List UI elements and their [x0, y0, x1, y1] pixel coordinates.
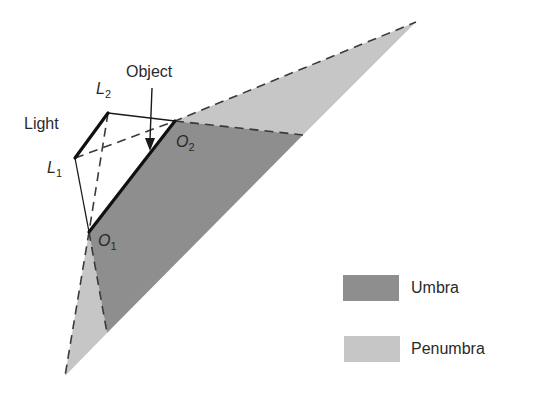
o2-label-main: O [176, 133, 188, 150]
object-label: Object [126, 64, 172, 80]
l2-label-main: L [96, 80, 105, 97]
l1-label-main: L [47, 159, 56, 176]
legend-label-penumbra: Penumbra [411, 341, 485, 357]
o1-label: O1 [98, 233, 117, 254]
shadow-diagram [0, 0, 537, 393]
o1-label-main: O [98, 232, 110, 249]
o1-label-sub: 1 [110, 240, 116, 252]
l1-label-sub: 1 [56, 167, 62, 179]
line-l2-o2 [108, 113, 175, 121]
legend-swatch-penumbra [344, 336, 400, 362]
legend-label-umbra: Umbra [411, 280, 459, 296]
light-label: Light [24, 116, 59, 132]
l1-label: L1 [47, 160, 62, 181]
l2-label-sub: 2 [105, 88, 111, 100]
umbra-region [89, 121, 303, 333]
object-arrow-icon [145, 88, 155, 151]
l2-label: L2 [96, 81, 111, 102]
o2-label-sub: 2 [188, 141, 194, 153]
legend-swatch-umbra [343, 275, 399, 301]
penumbra-upper-region [175, 22, 416, 135]
o2-label: O2 [176, 134, 195, 155]
line-l1-o1 [75, 158, 89, 232]
